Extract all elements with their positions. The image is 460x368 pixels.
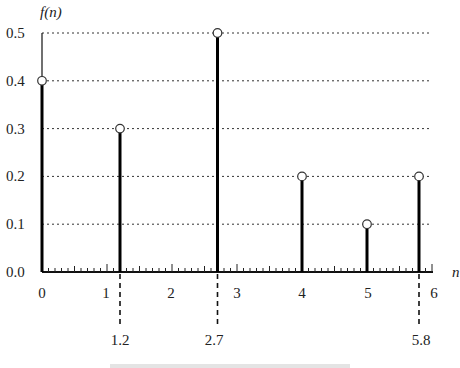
annotation-label: 1.2 <box>111 332 130 348</box>
x-tick-label: 4 <box>298 285 306 301</box>
annotation-label: 5.8 <box>412 332 431 348</box>
y-tick-label: 0.2 <box>6 168 25 184</box>
y-tick-label: 0.4 <box>6 73 25 89</box>
x-tick-labels: 0 1 2 3 4 5 6 <box>38 285 438 301</box>
y-tick-labels: 0.0 0.1 0.2 0.3 0.4 0.5 <box>6 25 25 280</box>
marker-circle <box>363 220 372 229</box>
stems <box>42 33 419 272</box>
x-tick-label: 5 <box>364 285 372 301</box>
y-axis-title: f(n) <box>40 4 62 21</box>
marker-circle <box>116 124 125 133</box>
stem-markers <box>38 29 424 229</box>
annotation-labels: 1.2 2.7 5.8 <box>111 332 431 348</box>
x-minor-ticks <box>49 264 433 272</box>
caption-fragment <box>110 364 350 368</box>
annotation-label: 2.7 <box>205 332 224 348</box>
marker-circle <box>415 172 424 181</box>
y-tick-label: 0.1 <box>6 216 25 232</box>
y-tick-label: 0.3 <box>6 121 25 137</box>
x-tick-label: 2 <box>167 285 175 301</box>
x-tick-label: 3 <box>233 285 241 301</box>
x-tick-label: 1 <box>102 285 110 301</box>
y-tick-label: 0.0 <box>6 264 25 280</box>
marker-circle <box>213 29 222 38</box>
annotation-dashes <box>120 274 419 328</box>
marker-circle <box>38 77 47 86</box>
gridlines <box>42 33 432 224</box>
x-axis-title: n <box>452 264 460 280</box>
y-tick-label: 0.5 <box>6 25 25 41</box>
x-tick-label: 6 <box>430 285 438 301</box>
marker-circle <box>298 172 307 181</box>
x-tick-label: 0 <box>38 285 46 301</box>
stem-chart: 0.0 0.1 0.2 0.3 0.4 0.5 f(n) 0 1 2 3 4 5… <box>0 0 460 368</box>
